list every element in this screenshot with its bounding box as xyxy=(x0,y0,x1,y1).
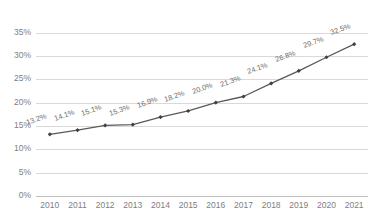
data-point-marker xyxy=(103,123,107,127)
data-point-marker xyxy=(269,81,273,85)
data-point-marker xyxy=(241,94,245,98)
data-point-marker xyxy=(214,100,218,104)
data-point-marker xyxy=(75,128,79,132)
data-point-marker xyxy=(352,42,356,46)
data-point-marker xyxy=(131,122,135,126)
data-point-marker xyxy=(297,69,301,73)
data-point-marker xyxy=(324,55,328,59)
data-point-marker xyxy=(158,115,162,119)
line-chart: 35%30%25%20%15%10%5%0% 20102011201220132… xyxy=(0,0,374,222)
data-point-marker xyxy=(48,132,52,136)
series-line xyxy=(0,0,374,222)
data-point-marker xyxy=(186,109,190,113)
